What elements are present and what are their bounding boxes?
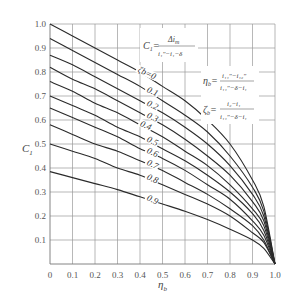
svg-text:i₁₁″−i₁₂″: i₁₁″−i₁₂″ [222,72,246,80]
curve-label: 0.8 [145,172,160,186]
y-tick-label: 0.6 [35,115,47,125]
formula-c1: C1= Δim i₁″−i₁−δ [140,28,198,62]
curve-label: 0.7 [145,157,160,171]
formula-eta: ηb= i₁₁″−i₁₂″ i₁₁″−δ−i₁ [201,66,259,96]
x-tick-label: 0.3 [112,270,124,280]
x-tick-label: 0.8 [224,270,236,280]
x-tick-label: 0.7 [202,270,214,280]
y-tick-label: 0.9 [35,43,47,53]
x-tick-label: 1.0 [269,270,281,280]
curve-label: 0.6 [145,145,160,159]
formula-zeta: ζb= i₂−i₁ i₁₁″−δ−i₁ [201,96,259,124]
x-tick-label: 0.4 [134,270,146,280]
y-tick-label: 0.8 [35,67,47,77]
y-axis-label: C1 [22,142,33,157]
x-tick-label: 0.6 [179,270,191,280]
chart: 00.10.20.30.40.50.60.70.80.91.00.10.20.3… [0,0,296,306]
y-tick-label: 0.5 [35,139,47,149]
svg-text:ηb=: ηb= [203,75,218,87]
y-tick-label: 0.2 [35,211,46,221]
svg-text:i₁₁″−δ−i₁: i₁₁″−δ−i₁ [220,84,247,92]
x-tick-label: 0.2 [89,270,100,280]
svg-text:i₁″−i₁−δ: i₁″−i₁−δ [158,50,183,58]
svg-text:ζb=: ζb= [203,104,217,116]
x-tick-label: 0 [48,270,53,280]
y-tick-label: 0.3 [35,187,47,197]
svg-text:i₁₁″−δ−i₁: i₁₁″−δ−i₁ [220,113,247,121]
y-tick-label: 0.7 [35,91,47,101]
x-axis-label: ηb [158,278,167,293]
x-tick-label: 0.9 [247,270,259,280]
y-tick-label: 0.1 [35,235,46,245]
y-tick-label: 1.0 [35,19,47,29]
y-tick-label: 0.4 [35,163,47,173]
svg-text:i₂−i₁: i₂−i₁ [227,100,240,108]
curve-label: 0.9 [145,193,160,207]
x-tick-label: 0.1 [67,270,78,280]
